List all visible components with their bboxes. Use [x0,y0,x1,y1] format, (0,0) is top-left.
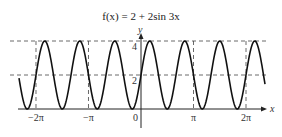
x-axis-arrow-icon [261,107,267,112]
y-tick-2: 2 [132,75,137,86]
y-axis-label: y [138,24,142,35]
y-tick-4: 4 [132,41,137,52]
chart-figure: f(x) = 2 + 2sin 3x y x 4 2 −2π −π 0 π 2π [0,0,282,137]
x-tick-2pi: 2π [241,112,251,123]
x-axis-label: x [270,103,274,114]
x-tick-pi: π [191,112,196,123]
x-tick-neg2pi: −2π [28,112,44,123]
x-tick-zero: 0 [133,112,138,123]
x-tick-negpi: −π [83,112,94,123]
